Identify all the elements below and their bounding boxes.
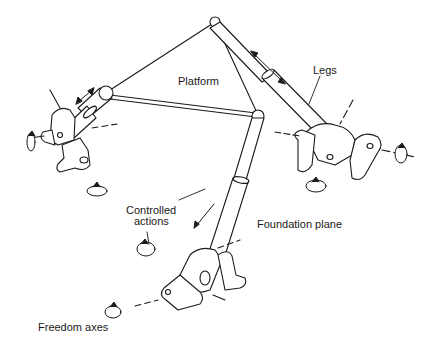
- leg-bottom: [207, 118, 264, 262]
- leg-right: [210, 22, 327, 132]
- label-freedom-axes: Freedom axes: [38, 321, 108, 333]
- label-controlled-actions-line2: actions: [134, 215, 169, 227]
- platform-triangle: [107, 22, 258, 117]
- label-legs: Legs: [313, 64, 337, 76]
- stewart-platform-diagram: [0, 0, 434, 351]
- label-platform: Platform: [178, 75, 219, 87]
- label-foundation-plane: Foundation plane: [257, 218, 342, 230]
